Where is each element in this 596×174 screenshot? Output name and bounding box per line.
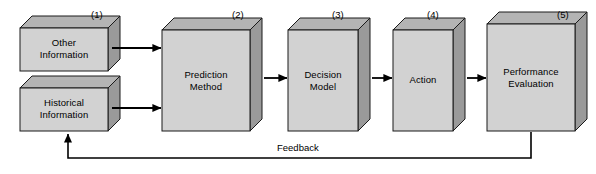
diagram-svg: [0, 0, 596, 174]
box-front-face: [20, 28, 108, 71]
box-top-face: [487, 12, 587, 24]
box-historical-information[interactable]: [20, 76, 120, 131]
box-top-face: [288, 18, 370, 30]
box-action[interactable]: [393, 18, 465, 131]
box-prediction-method[interactable]: [162, 18, 262, 131]
box-top-face: [20, 16, 120, 28]
box-side-face: [358, 18, 370, 131]
box-front-face: [487, 24, 575, 131]
box-top-face: [20, 76, 120, 88]
diagram-canvas: (1) (2) (3) (4) (5) Other Information Hi…: [0, 0, 596, 174]
box-top-face: [162, 18, 262, 30]
feedback-loop-path: [68, 132, 531, 158]
box-side-face: [250, 18, 262, 131]
box-front-face: [288, 30, 358, 131]
box-other-information[interactable]: [20, 16, 120, 71]
box-performance-evaluation[interactable]: [487, 12, 587, 131]
box-side-face: [453, 18, 465, 131]
box-front-face: [393, 30, 453, 131]
box-side-face: [575, 12, 587, 131]
box-front-face: [162, 30, 250, 131]
box-decision-model[interactable]: [288, 18, 370, 131]
box-front-face: [20, 88, 108, 131]
